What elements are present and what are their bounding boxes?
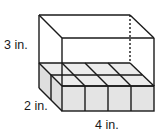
depth-label: 2 in. [24,100,48,113]
height-label: 3 in. [4,39,28,52]
cube-layer [39,63,154,111]
prism-diagram [0,0,166,136]
width-label: 4 in. [95,119,119,132]
